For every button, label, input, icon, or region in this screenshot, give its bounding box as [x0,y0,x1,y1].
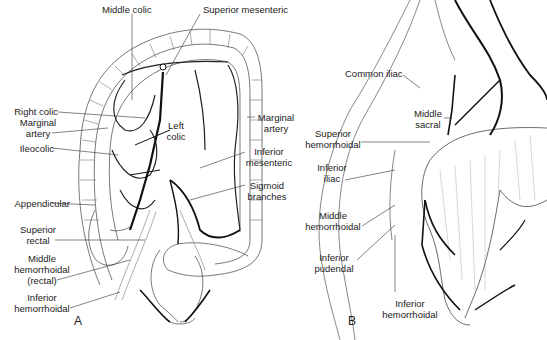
label-inferior-hemorrhoidal-b: Inferior hemorrhoidal [382,298,438,320]
label-left-colic: Left colic [162,120,190,142]
label-superior-rectal: Superior rectal [20,224,56,246]
label-text: Inferior [312,252,356,263]
label-middle-hemorrhoidal-a: Middle hemorrhoidal (rectal) [14,253,70,286]
colon-blood-supply-illustration [0,0,547,340]
label-ileocolic: Ileocolic [10,143,54,154]
label-text: iliac [314,173,350,184]
label-text: Inferior [314,162,350,173]
panel-label-a: A [74,314,82,328]
label-right-colic: Right colic [14,106,58,117]
label-text: hemorrhoidal [14,303,70,314]
label-middle-sacral: Middle sacral [412,108,444,130]
panel-letter: B [348,314,356,328]
label-inferior-mesenteric: Inferior mesenteric [244,146,294,168]
label-middle-hemorrhoidal-b: Middle hemorrhoidal [305,210,361,232]
label-common-iliac: Common iliac [345,68,403,79]
label-text: Inferior [14,292,70,303]
panel-label-b: B [348,314,356,328]
label-text: Middle [305,210,361,221]
label-text: rectal [20,235,56,246]
label-text: hemorrhoidal [382,309,438,320]
label-text: branches [244,191,290,202]
panel-letter: A [74,314,82,328]
label-text: colic [162,131,190,142]
label-text: hemorrhoidal [305,221,361,232]
label-text: artery [256,123,296,134]
label-inferior-hemorrhoidal-a: Inferior hemorrhoidal [14,292,70,314]
label-text: Middle [412,108,444,119]
label-text: Middle [14,253,70,264]
label-inferior-iliac: Inferior iliac [314,162,350,184]
label-text: mesenteric [244,157,294,168]
label-text: Ileocolic [20,143,54,154]
label-text: Marginal [18,117,58,128]
label-text: Superior mesenteric [203,4,288,15]
rectum-b [422,128,547,325]
label-text: artery [18,128,58,139]
label-text: Sigmoid [244,180,290,191]
label-text: Middle colic [102,4,152,15]
label-marginal-artery-right: Marginal artery [256,112,296,134]
label-text: hemorrhoidal [305,139,361,150]
label-inferior-pudendal: Inferior pudendal [312,252,356,274]
label-appendicular: Appendicular [4,198,70,209]
label-text: Common iliac [345,68,403,79]
label-text: Left [162,120,190,131]
label-marginal-artery-left: Marginal artery [18,117,58,139]
label-text: Right colic [14,106,58,117]
label-text: Superior [305,128,361,139]
label-middle-colic: Middle colic [102,4,152,15]
label-text: pudendal [312,263,356,274]
label-text: hemorrhoidal [14,264,70,275]
arteries-b [422,0,547,310]
label-superior-hemorrhoidal-b: Superior hemorrhoidal [305,128,361,150]
label-text: (rectal) [14,275,70,286]
label-sigmoid-branches: Sigmoid branches [244,180,290,202]
label-text: sacral [412,119,444,130]
label-superior-mesenteric: Superior mesenteric [203,4,288,15]
label-text: Marginal [256,112,296,123]
label-text: Superior [20,224,56,235]
label-text: Appendicular [15,198,70,209]
label-text: Inferior [382,298,438,309]
arteries-a [130,64,240,322]
label-text: Inferior [244,146,294,157]
